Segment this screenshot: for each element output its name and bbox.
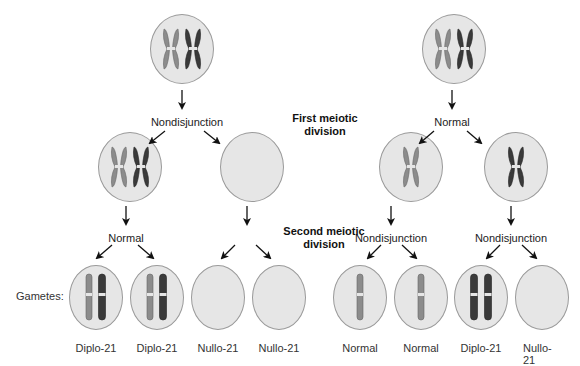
gamete-label-3: Nullo-21: [198, 342, 239, 354]
chromatid-dark-icon: [99, 274, 106, 320]
chromatid-dark-icon: [471, 274, 478, 320]
chromosome-21-light-icon: [435, 29, 450, 69]
arrow-icon: [222, 245, 235, 258]
arrow-icon: [487, 245, 500, 258]
gamete-label-8: Nullo-21: [523, 342, 561, 366]
chromosome-21-dark-icon: [185, 29, 200, 69]
left-first-division-event: Nondisjunction: [151, 116, 223, 128]
chromatid-dark-icon: [485, 274, 492, 320]
chromosome-21-dark-icon: [508, 147, 523, 187]
chromatid-light-icon: [86, 274, 92, 320]
arrow-icon: [204, 131, 219, 143]
arrow-icon: [138, 245, 153, 258]
chromosome-21-light-icon: [163, 29, 178, 69]
arrow-icon: [522, 245, 536, 258]
chromosome-21-light-icon: [111, 147, 126, 187]
chromatid-dark-icon: [160, 274, 167, 320]
arrow-icon: [150, 131, 165, 143]
gamete-label-1: Diplo-21: [76, 342, 117, 354]
right-second-division-event-2: Nondisjunction: [475, 232, 547, 244]
gametes-heading: Gametes:: [16, 290, 64, 302]
first-meiotic-division-label: First meiotic division: [292, 112, 357, 138]
arrow-icon: [256, 245, 270, 258]
arrow-icon: [97, 245, 112, 258]
arrow-icon: [420, 131, 434, 143]
gamete-label-7: Diplo-21: [461, 342, 502, 354]
chromatid-light-icon: [357, 274, 363, 320]
arrow-icon: [402, 245, 416, 258]
chromatid-light-icon: [418, 274, 424, 320]
right-second-division-event: Nondisjunction: [355, 232, 427, 244]
second-meiotic-division-label: Second meiotic division: [283, 225, 364, 251]
gamete-label-2: Diplo-21: [137, 342, 178, 354]
arrow-icon: [467, 131, 481, 143]
gamete-label-5: Normal: [342, 342, 377, 354]
chromosome-21-dark-icon: [133, 147, 148, 187]
right-first-division-event: Normal: [434, 116, 469, 128]
chromosome-21-light-icon: [403, 147, 418, 187]
chromosome-21-dark-icon: [457, 29, 472, 69]
arrow-icon: [368, 245, 381, 258]
left-second-division-event: Normal: [108, 232, 143, 244]
gamete-label-6: Normal: [403, 342, 438, 354]
chromatid-light-icon: [147, 274, 153, 320]
gamete-label-4: Nullo-21: [259, 342, 300, 354]
